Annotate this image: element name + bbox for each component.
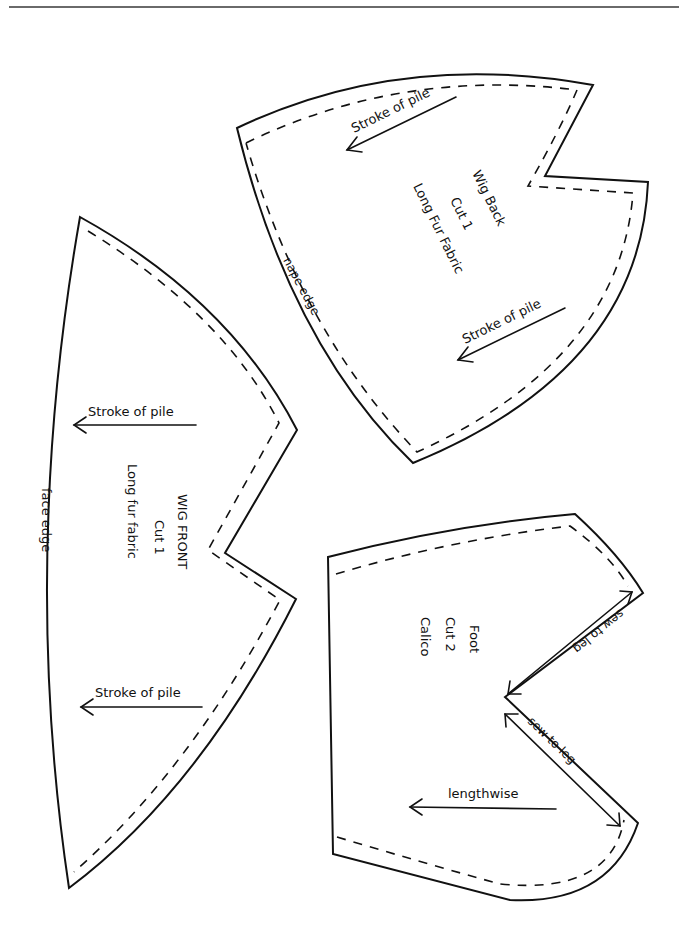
foot-piece: sew to leg sew to leg lengthwise Foot Cu…	[328, 514, 643, 900]
wig-back-title: Wig Back	[469, 168, 509, 229]
foot-title: Foot	[467, 625, 482, 653]
foot-fabric: Calico	[418, 617, 433, 656]
wig-front-pile-label-2: Stroke of pile	[95, 685, 181, 700]
wig-front-pile-label-1: Stroke of pile	[88, 404, 174, 419]
wig-back-piece: Stroke of pile Stroke of pile Wig Back C…	[237, 74, 648, 463]
wig-front-face-edge-label: face edge	[39, 488, 54, 552]
foot-seam-line	[336, 526, 628, 586]
wig-front-title: WIG FRONT	[175, 494, 190, 569]
wig-front-fabric: Long fur fabric	[125, 464, 140, 559]
wig-back-pile-arrow-1: Stroke of pile	[347, 85, 456, 152]
foot-lengthwise-arrow: lengthwise	[410, 786, 556, 815]
wig-back-cut: Cut 1	[447, 195, 476, 233]
wig-front-piece: Stroke of pile Stroke of pile WIG FRONT …	[39, 217, 297, 888]
foot-sew-to-leg-label-1: sew to leg	[570, 607, 627, 657]
wig-front-pile-arrow-1: Stroke of pile	[74, 404, 196, 433]
foot-cut: Cut 2	[443, 617, 458, 652]
wig-front-cut-line	[47, 217, 297, 888]
wig-back-pile-arrow-2: Stroke of pile	[458, 296, 565, 362]
wig-front-cut: Cut 1	[152, 520, 167, 555]
foot-lengthwise-label: lengthwise	[448, 786, 518, 801]
wig-front-pile-arrow-2: Stroke of pile	[81, 685, 202, 715]
foot-sew-to-leg-arrow-1: sew to leg	[508, 591, 632, 694]
wig-back-seam-line	[246, 85, 633, 452]
foot-cut-line	[328, 514, 643, 900]
foot-seam-line-bottom	[337, 820, 624, 885]
